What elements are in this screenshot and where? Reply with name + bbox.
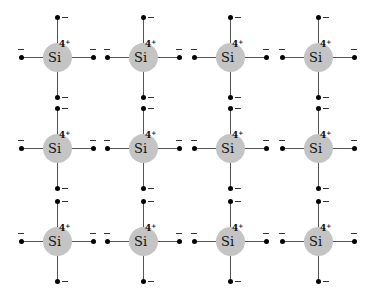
core-charge-label: 4+: [145, 224, 156, 233]
element-symbol: Si: [48, 142, 61, 155]
element-symbol: Si: [221, 235, 234, 248]
negative-charge-mark: [18, 49, 24, 50]
negative-charge-mark: [148, 97, 154, 98]
element-symbol: Si: [134, 51, 147, 64]
valence-electron-dot: [228, 199, 233, 204]
valence-electron-dot: [316, 15, 321, 20]
negative-charge-mark: [351, 49, 357, 50]
valence-electron-dot: [19, 239, 24, 244]
negative-charge-mark: [148, 201, 154, 202]
valence-electron-dot: [228, 279, 233, 284]
valence-electron-dot: [177, 239, 182, 244]
negative-charge-mark: [90, 140, 96, 141]
valence-electron-dot: [192, 239, 197, 244]
negative-charge-mark: [148, 188, 154, 189]
valence-electron-dot: [55, 186, 60, 191]
valence-electron-dot: [316, 95, 321, 100]
valence-electron-dot: [280, 55, 285, 60]
negative-charge-mark: [263, 140, 269, 141]
valence-electron-dot: [105, 55, 110, 60]
valence-electron-dot: [55, 106, 60, 111]
core-charge-label: 4+: [59, 224, 70, 233]
valence-electron-dot: [228, 186, 233, 191]
negative-charge-mark: [235, 281, 241, 282]
negative-charge-mark: [148, 108, 154, 109]
core-charge-label: 4+: [59, 40, 70, 49]
valence-electron-dot: [280, 239, 285, 244]
core-charge-label: 4+: [232, 224, 243, 233]
negative-charge-mark: [104, 49, 110, 50]
negative-charge-mark: [62, 188, 68, 189]
valence-electron-dot: [141, 95, 146, 100]
negative-charge-mark: [351, 233, 357, 234]
valence-electron-dot: [352, 55, 357, 60]
valence-electron-dot: [91, 239, 96, 244]
negative-charge-mark: [176, 49, 182, 50]
valence-electron-dot: [316, 106, 321, 111]
negative-charge-mark: [18, 233, 24, 234]
negative-charge-mark: [62, 281, 68, 282]
valence-electron-dot: [316, 186, 321, 191]
negative-charge-mark: [191, 140, 197, 141]
negative-charge-mark: [62, 97, 68, 98]
negative-charge-mark: [351, 140, 357, 141]
element-symbol: Si: [221, 142, 234, 155]
silicon-lattice-diagram: Si4+Si4+Si4+Si4+Si4+Si4+Si4+Si4+Si4+Si4+…: [0, 0, 378, 291]
negative-charge-mark: [62, 201, 68, 202]
valence-electron-dot: [55, 95, 60, 100]
valence-electron-dot: [55, 15, 60, 20]
valence-electron-dot: [264, 55, 269, 60]
valence-electron-dot: [228, 95, 233, 100]
negative-charge-mark: [323, 108, 329, 109]
valence-electron-dot: [105, 146, 110, 151]
valence-electron-dot: [141, 186, 146, 191]
valence-electron-dot: [141, 106, 146, 111]
valence-electron-dot: [264, 239, 269, 244]
element-symbol: Si: [309, 142, 322, 155]
valence-electron-dot: [91, 146, 96, 151]
negative-charge-mark: [62, 17, 68, 18]
element-symbol: Si: [48, 235, 61, 248]
element-symbol: Si: [309, 235, 322, 248]
negative-charge-mark: [18, 140, 24, 141]
valence-electron-dot: [91, 55, 96, 60]
element-symbol: Si: [309, 51, 322, 64]
negative-charge-mark: [191, 233, 197, 234]
negative-charge-mark: [279, 233, 285, 234]
negative-charge-mark: [235, 17, 241, 18]
negative-charge-mark: [90, 233, 96, 234]
element-symbol: Si: [134, 235, 147, 248]
element-symbol: Si: [221, 51, 234, 64]
negative-charge-mark: [235, 97, 241, 98]
negative-charge-mark: [235, 201, 241, 202]
negative-charge-mark: [263, 233, 269, 234]
valence-electron-dot: [264, 146, 269, 151]
negative-charge-mark: [323, 17, 329, 18]
valence-electron-dot: [105, 239, 110, 244]
valence-electron-dot: [192, 146, 197, 151]
core-charge-label: 4+: [232, 40, 243, 49]
core-charge-label: 4+: [320, 131, 331, 140]
valence-electron-dot: [19, 55, 24, 60]
negative-charge-mark: [176, 233, 182, 234]
core-charge-label: 4+: [145, 131, 156, 140]
element-symbol: Si: [48, 51, 61, 64]
valence-electron-dot: [141, 279, 146, 284]
negative-charge-mark: [191, 49, 197, 50]
core-charge-label: 4+: [232, 131, 243, 140]
valence-electron-dot: [55, 279, 60, 284]
negative-charge-mark: [148, 17, 154, 18]
negative-charge-mark: [176, 140, 182, 141]
valence-electron-dot: [228, 15, 233, 20]
negative-charge-mark: [323, 201, 329, 202]
core-charge-label: 4+: [59, 131, 70, 140]
element-symbol: Si: [134, 142, 147, 155]
negative-charge-mark: [279, 49, 285, 50]
valence-electron-dot: [352, 146, 357, 151]
valence-electron-dot: [141, 15, 146, 20]
negative-charge-mark: [263, 49, 269, 50]
valence-electron-dot: [192, 55, 197, 60]
valence-electron-dot: [177, 55, 182, 60]
negative-charge-mark: [323, 188, 329, 189]
negative-charge-mark: [323, 97, 329, 98]
